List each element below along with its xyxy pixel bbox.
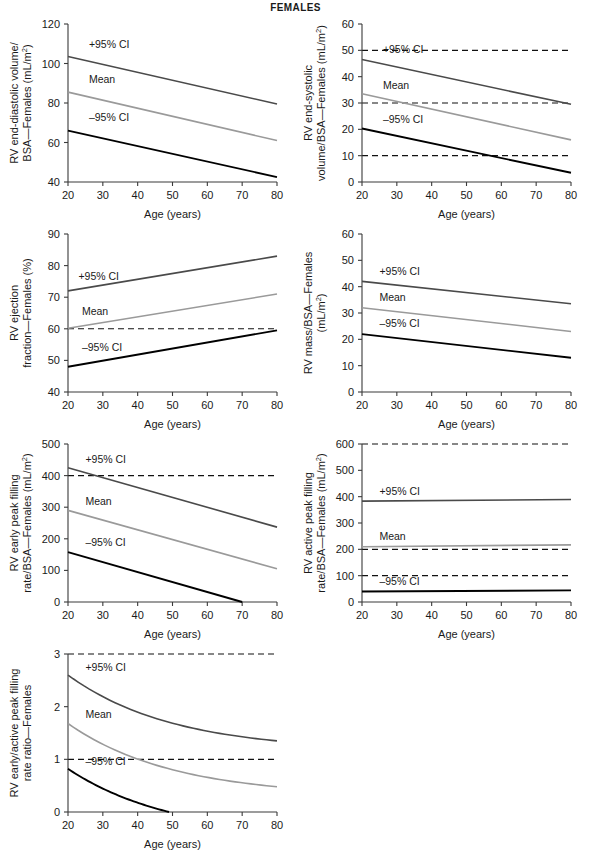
y-tick-label: 60 (342, 18, 354, 30)
series-line-lower (68, 769, 169, 812)
series-label-upper: +95% CI (383, 43, 424, 55)
chart-svg-rv-end-systolic-volume: 010203040506020304050607080Age (years)RV… (294, 10, 589, 222)
y-axis-title-line: (mL/m2) (313, 293, 327, 332)
x-tick-label: 50 (166, 609, 178, 621)
y-tick-label: 90 (48, 228, 60, 240)
y-axis-title-line: rate ratio—Females (21, 684, 33, 781)
x-tick-label: 30 (97, 189, 109, 201)
y-tick-label: 400 (336, 491, 354, 503)
x-tick-label: 60 (201, 189, 213, 201)
y-tick-label: 400 (42, 470, 60, 482)
series-label-upper: +95% CI (85, 453, 126, 465)
x-tick-label: 40 (132, 399, 144, 411)
x-tick-label: 60 (201, 819, 213, 831)
chart-svg-rv-active-peak-filling-rate: 010020030040050060020304050607080Age (ye… (294, 430, 589, 642)
x-tick-label: 80 (271, 819, 283, 831)
y-tick-label: 10 (342, 150, 354, 162)
y-axis-title-line: RV ejection (8, 285, 20, 341)
chart-svg-rv-early-peak-filling-rate: 010020030040050020304050607080Age (years… (0, 430, 295, 642)
x-tick-label: 80 (565, 399, 577, 411)
x-tick-label: 40 (426, 399, 438, 411)
x-axis-title: Age (years) (144, 628, 201, 640)
x-tick-label: 80 (565, 609, 577, 621)
y-tick-label: 60 (48, 323, 60, 335)
x-axis-title: Age (years) (438, 418, 495, 430)
y-axis-title-line: RV end-diastolic volume/ (8, 41, 20, 163)
y-tick-label: 120 (42, 18, 60, 30)
y-axis-title-line: RV active peak filling (302, 472, 314, 574)
x-tick-label: 60 (495, 609, 507, 621)
y-tick-label: 60 (342, 228, 354, 240)
y-tick-label: 100 (336, 570, 354, 582)
series-label-mean: Mean (85, 495, 111, 507)
y-tick-label: 70 (48, 291, 60, 303)
x-axis-title: Age (years) (144, 838, 201, 850)
chart-panel-rv-active-peak-filling: 010020030040050060020304050607080Age (ye… (294, 430, 589, 642)
series-line-lower (362, 129, 571, 173)
x-tick-label: 40 (132, 189, 144, 201)
x-axis-title: Age (years) (438, 208, 495, 220)
x-tick-label: 40 (426, 189, 438, 201)
chart-svg-rv-end-diastolic-volume: 40608010012020304050607080Age (years)RV … (0, 10, 295, 222)
x-axis-title: Age (years) (438, 628, 495, 640)
series-label-lower: –95% CI (85, 536, 125, 548)
y-tick-label: 200 (336, 543, 354, 555)
series-label-mean: Mean (82, 305, 108, 317)
series-label-upper: +95% CI (78, 270, 119, 282)
y-tick-label: 50 (48, 354, 60, 366)
y-tick-label: 1 (54, 753, 60, 765)
y-axis-title-line: volume/BSA—Females (mL/m2) (313, 25, 327, 181)
x-tick-label: 20 (62, 189, 74, 201)
chart-svg-rv-early-active-peak-filling-rate-ratio: 012320304050607080Age (years)RV early/ac… (0, 640, 295, 852)
y-tick-label: 500 (42, 438, 60, 450)
x-tick-label: 30 (97, 609, 109, 621)
y-tick-label: 40 (48, 176, 60, 188)
y-tick-label: 200 (42, 533, 60, 545)
x-tick-label: 60 (495, 399, 507, 411)
x-tick-label: 20 (356, 399, 368, 411)
y-axis-title-line: rate/BSA—Females (mL/m2) (313, 453, 327, 592)
series-label-lower: –95% CI (89, 111, 129, 123)
x-tick-label: 30 (391, 609, 403, 621)
y-tick-label: 10 (342, 360, 354, 372)
x-tick-label: 50 (166, 399, 178, 411)
x-tick-label: 40 (132, 819, 144, 831)
series-line-lower (68, 552, 242, 602)
y-tick-label: 100 (42, 58, 60, 70)
x-tick-label: 40 (426, 609, 438, 621)
chart-panel-rv-end-systolic-volume: 010203040506020304050607080Age (years)RV… (294, 10, 589, 222)
y-tick-label: 3 (54, 648, 60, 660)
y-axis-title-line: rate/BSA—Females (mL/m2) (19, 453, 33, 592)
x-tick-label: 50 (166, 189, 178, 201)
series-label-upper: +95% CI (379, 485, 420, 497)
x-tick-label: 20 (62, 609, 74, 621)
y-tick-label: 300 (42, 501, 60, 513)
series-label-lower: –95% CI (82, 341, 122, 353)
x-tick-label: 30 (391, 189, 403, 201)
y-tick-label: 0 (54, 596, 60, 608)
x-tick-label: 60 (495, 189, 507, 201)
series-line-lower (362, 334, 571, 358)
x-tick-label: 70 (236, 609, 248, 621)
x-tick-label: 70 (530, 189, 542, 201)
y-tick-label: 0 (348, 386, 354, 398)
y-axis-title-line: RV early peak filling (8, 474, 20, 571)
y-tick-label: 600 (336, 438, 354, 450)
y-axis-title-line: RV mass/BSA—Females (302, 251, 314, 374)
y-tick-label: 100 (42, 564, 60, 576)
y-tick-label: 40 (342, 281, 354, 293)
x-axis-title: Age (years) (144, 418, 201, 430)
y-tick-label: 300 (336, 517, 354, 529)
series-label-mean: Mean (379, 291, 405, 303)
y-axis-title-line: BSA—Females (mL/m2) (19, 44, 33, 161)
series-label-upper: +95% CI (379, 265, 420, 277)
y-tick-label: 0 (54, 806, 60, 818)
series-label-lower: –95% CI (85, 755, 125, 767)
y-tick-label: 60 (48, 137, 60, 149)
y-tick-label: 80 (48, 97, 60, 109)
series-line-lower (362, 590, 571, 591)
series-label-mean: Mean (383, 79, 409, 91)
x-tick-label: 50 (460, 399, 472, 411)
series-line-upper (362, 500, 571, 502)
y-tick-label: 30 (342, 97, 354, 109)
